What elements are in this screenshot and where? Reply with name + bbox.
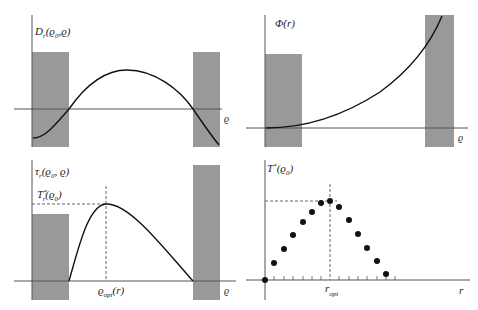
y-axis-label: Dr(ϱ0,ϱ) — [34, 25, 71, 40]
diagram-canvas: Dr(ϱ0,ϱ) ϱ Φ̇(r) ϱ τr(ϱ0, ϱ) T*r(ϱ0) ϱop… — [0, 0, 478, 310]
x-axis-ticks — [274, 276, 395, 280]
x-axis-label: ϱ — [458, 132, 463, 143]
shaded-region-right — [425, 15, 454, 147]
shaded-region-right — [193, 165, 220, 300]
curve-tau-r — [69, 204, 193, 281]
panel-bottom-left: τr(ϱ0, ϱ) T*r(ϱ0) ϱopt(r) ϱ — [14, 160, 236, 300]
y-axis-label: T*(ϱ0) — [267, 162, 293, 177]
peak-value-label: T*r(ϱ0) — [37, 188, 62, 203]
x-axis-label: ϱ — [224, 113, 229, 124]
optimum-label: ropt — [325, 282, 339, 298]
y-axis-label: τr(ϱ0, ϱ) — [35, 165, 70, 180]
panel-bottom-right: T*(ϱ0) ropt r — [246, 160, 470, 300]
panel-top-right: Φ̇(r) ϱ — [246, 15, 468, 147]
shaded-region-left — [265, 54, 302, 147]
x-axis-label: r — [459, 284, 464, 296]
x-axis-label: ϱ — [224, 285, 229, 296]
panel-top-left: Dr(ϱ0,ϱ) ϱ — [14, 15, 229, 147]
data-points — [262, 198, 389, 283]
shaded-region-left — [32, 52, 69, 147]
optimum-label: ϱopt(r) — [98, 284, 124, 299]
shaded-region-right — [193, 52, 220, 147]
y-axis-label: Φ̇(r) — [275, 17, 295, 30]
shaded-region-left — [32, 214, 69, 300]
